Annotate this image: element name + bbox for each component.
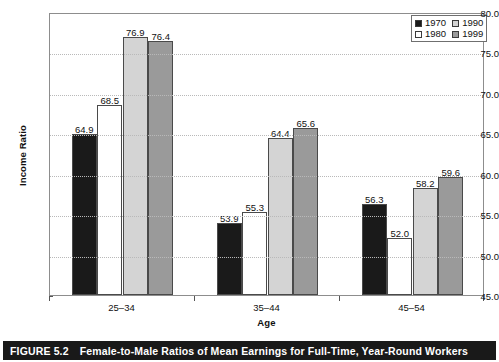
legend-label-1970: 1970: [425, 18, 446, 28]
bar-1980-35-44: [242, 212, 267, 295]
x-axis-title: Age: [49, 317, 484, 328]
gridline: [50, 257, 483, 258]
bar-value-label: 53.9: [220, 213, 239, 224]
bar-value-label: 58.2: [416, 178, 435, 189]
figure-container: Income Ratio 64.968.576.976.453.955.364.…: [0, 0, 499, 362]
y-axis-ticks: [0, 13, 49, 296]
bar-1970-25-34: [72, 134, 97, 295]
gridline: [50, 95, 483, 96]
legend-swatch-1980: [415, 31, 422, 38]
legend-label-1990: 1990: [462, 18, 483, 28]
x-tick-mark: [194, 296, 195, 301]
bar-value-label: 64.9: [75, 124, 94, 135]
bar-value-label: 65.6: [297, 118, 316, 129]
y-tick-label: 75.0: [455, 48, 499, 59]
bar-value-label: 64.4: [271, 128, 290, 139]
bar-value-label: 55.3: [246, 202, 265, 213]
bar-1980-25-34: [97, 105, 122, 295]
plot-area: 64.968.576.976.453.955.364.465.656.352.0…: [49, 13, 484, 296]
bar-1980-45-54: [387, 238, 412, 295]
legend-label-1999: 1999: [462, 29, 483, 39]
y-tick-label: 65.0: [455, 129, 499, 140]
bar-value-label: 52.0: [391, 228, 410, 239]
gridline: [50, 216, 483, 217]
x-tick-label: 35–44: [253, 302, 279, 313]
bar-1970-45-54: [362, 204, 387, 295]
figure-caption: FIGURE 5.2 Female-to-Male Ratios of Mean…: [3, 341, 496, 360]
bar-1999-45-54: [438, 177, 463, 295]
legend: 1970199019801999: [411, 15, 487, 42]
bar-1970-35-44: [217, 223, 242, 295]
legend-item-1970: 1970: [415, 18, 446, 28]
legend-item-1999: 1999: [452, 29, 483, 39]
bars-layer: 64.968.576.976.453.955.364.465.656.352.0…: [50, 14, 483, 295]
legend-label-1980: 1980: [425, 29, 446, 39]
y-tick-label: 45.0: [455, 291, 499, 302]
gridline: [50, 54, 483, 55]
y-tick-label: 70.0: [455, 88, 499, 99]
bar-value-label: 76.4: [152, 31, 171, 42]
caption-text: Female-to-Male Ratios of Mean Earnings f…: [80, 345, 468, 357]
legend-swatch-1999: [452, 31, 459, 38]
legend-item-1980: 1980: [415, 29, 446, 39]
y-tick-label: 55.0: [455, 210, 499, 221]
x-tick-mark: [49, 296, 50, 301]
caption-number: FIGURE 5.2: [10, 345, 69, 357]
x-tick-label: 45–54: [398, 302, 424, 313]
x-tick-mark: [339, 296, 340, 301]
gridline: [50, 176, 483, 177]
x-tick-label: 25–34: [108, 302, 134, 313]
bar-value-label: 56.3: [365, 194, 384, 205]
legend-item-1990: 1990: [452, 18, 483, 28]
legend-swatch-1990: [452, 20, 459, 27]
bar-value-label: 68.5: [101, 95, 120, 106]
gridline: [50, 135, 483, 136]
bar-value-label: 76.9: [126, 27, 145, 38]
y-tick-label: 60.0: [455, 169, 499, 180]
y-tick-label: 50.0: [455, 250, 499, 261]
y-tick-label: 80.0: [455, 8, 499, 19]
bar-1999-35-44: [293, 128, 318, 295]
legend-swatch-1970: [415, 20, 422, 27]
bar-1990-45-54: [413, 188, 438, 295]
